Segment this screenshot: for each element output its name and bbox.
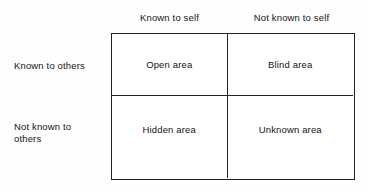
row-label-known-to-others: Known to others — [14, 60, 109, 72]
column-header-known-to-self: Known to self — [111, 12, 228, 24]
johari-window-figure: Known to self Not known to self Known to… — [0, 0, 367, 193]
quadrant-open-area: Open area — [112, 34, 228, 96]
quadrant-blind-area: Blind area — [228, 34, 354, 96]
johari-matrix-grid: Open area Blind area Hidden area Unknown… — [111, 33, 355, 180]
quadrant-unknown-area: Unknown area — [228, 96, 354, 179]
row-label-not-known-to-others: Not known toothers — [14, 121, 109, 144]
quadrant-hidden-area: Hidden area — [112, 96, 228, 179]
column-header-not-known-to-self: Not known to self — [228, 12, 355, 24]
